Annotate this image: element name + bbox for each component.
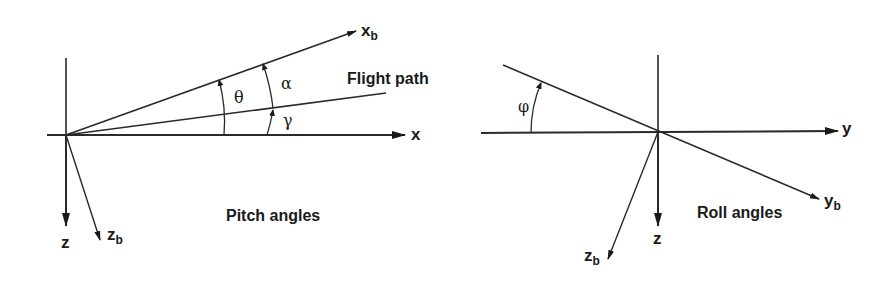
roll-zb-sub: b [593,254,600,268]
pitch-angles-caption: Pitch angles [226,208,320,224]
aircraft-angles-figure: xb Flight path x z zb θ α γ Pitch angles… [0,0,888,287]
pitch-zb-sub: b [116,233,123,247]
flight-path-line [66,93,386,135]
roll-yb-sub: b [833,199,840,213]
gamma-arc [267,110,273,135]
pitch-zb-axis [66,135,100,240]
pitch-xb-axis [66,31,356,135]
phi-arc [531,83,541,133]
flight-path-label: Flight path [347,71,429,87]
gamma-label: γ [283,113,293,129]
roll-z-label: z [653,230,662,247]
pitch-zb-main: z [107,225,116,244]
pitch-xb-label: xb [361,22,378,39]
roll-angles-caption: Roll angles [697,205,782,221]
roll-y-label: y [842,120,851,137]
alpha-label: α [281,76,292,92]
diagram-lines [0,0,888,287]
roll-yb-label: yb [824,192,841,209]
pitch-zb-label: zb [107,226,123,243]
pitch-xb-sub: b [370,29,377,43]
alpha-arc [263,64,273,108]
phi-label: φ [518,99,529,115]
pitch-x-label: x [411,126,420,143]
theta-label: θ [234,90,244,106]
theta-arc [219,80,225,135]
roll-zb-main: z [584,246,593,265]
roll-zb-label: zb [584,247,600,264]
pitch-z-label: z [61,234,70,251]
roll-zb-axis [608,132,658,259]
